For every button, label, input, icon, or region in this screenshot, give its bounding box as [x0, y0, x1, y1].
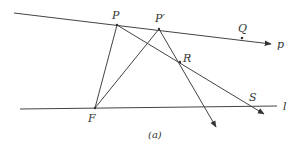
caption: (a) [148, 129, 162, 140]
label-q: Q [238, 22, 247, 35]
label-r: R [182, 52, 191, 65]
label-f: F [87, 112, 96, 125]
line-l [20, 106, 277, 109]
label-p-point: P [111, 9, 120, 22]
point-r-dot [179, 61, 181, 63]
geometry-diagram: P P′ Q R F S p l (a) [0, 0, 297, 151]
line-p [14, 13, 271, 44]
label-s: S [249, 91, 257, 104]
point-q-dot [241, 37, 244, 40]
label-line-p: p [277, 38, 284, 51]
ray-p-prime [159, 29, 216, 127]
label-line-l: l [283, 100, 287, 113]
label-p-prime: P′ [154, 12, 165, 25]
point-p-prime-dot [158, 28, 160, 30]
point-p-dot [116, 24, 118, 26]
segment-f-p [95, 25, 117, 108]
point-f-dot [94, 107, 96, 109]
segment-f-p-prime [95, 29, 159, 108]
